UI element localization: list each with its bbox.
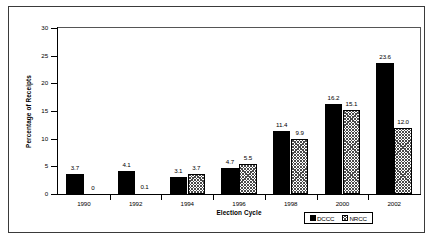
bar-dccc-1992 xyxy=(118,171,136,194)
y-tick-label: 30 xyxy=(41,25,48,31)
bar-value-label: 3.7 xyxy=(71,165,79,171)
figure-frame: Percentage of Receipts 051015202530 1990… xyxy=(8,6,425,233)
bar-value-label: 4.7 xyxy=(226,159,234,165)
bar-value-label: 15.1 xyxy=(346,101,358,107)
x-tick xyxy=(317,195,318,200)
x-tick-label: 1994 xyxy=(181,201,194,207)
legend-label-nrcc: NRCC xyxy=(349,215,366,222)
x-tick-label: 1990 xyxy=(77,201,90,207)
bar-dccc-2000 xyxy=(325,104,343,194)
bar-value-label: 3.7 xyxy=(192,165,200,171)
plot-area: 051015202530 199019921994199619982000200… xyxy=(57,27,421,195)
x-tick xyxy=(213,195,214,200)
legend-swatch-dccc xyxy=(310,215,316,221)
bar-nrcc-1994 xyxy=(188,174,206,194)
bar-nrcc-2000 xyxy=(343,110,361,194)
y-tick xyxy=(51,139,57,140)
legend-label-dccc: DCCC xyxy=(317,215,334,222)
legend-item-nrcc: NRCC xyxy=(342,215,366,222)
bar-dccc-1996 xyxy=(221,168,239,194)
y-tick-label: 15 xyxy=(41,108,48,114)
legend-swatch-nrcc xyxy=(342,215,348,221)
x-tick xyxy=(368,195,369,200)
x-tick xyxy=(265,195,266,200)
x-tick-label: 2002 xyxy=(387,201,400,207)
bar-value-label: 11.4 xyxy=(276,122,287,128)
x-tick-label: 1992 xyxy=(129,201,142,207)
y-tick-label: 10 xyxy=(41,136,48,142)
y-tick xyxy=(51,166,57,167)
y-axis-title: Percentage of Receipts xyxy=(22,27,34,195)
bar-value-label: 0 xyxy=(91,185,94,191)
x-tick xyxy=(110,195,111,200)
y-tick-label: 0 xyxy=(45,191,48,197)
bar-dccc-1998 xyxy=(273,131,291,194)
y-tick-label: 20 xyxy=(41,80,48,86)
bar-nrcc-2002 xyxy=(394,128,412,194)
chart-legend: DCCC NRCC xyxy=(304,212,373,224)
y-tick xyxy=(51,194,57,195)
bar-value-label: 16.2 xyxy=(328,95,340,101)
bar-value-label: 12.0 xyxy=(397,119,409,125)
bar-value-label: 4.1 xyxy=(122,162,130,168)
x-tick xyxy=(161,195,162,200)
bar-value-label: 3.1 xyxy=(174,168,182,174)
x-tick-label: 1996 xyxy=(232,201,245,207)
y-tick xyxy=(51,28,57,29)
bar-value-label: 5.5 xyxy=(244,155,252,161)
bar-dccc-1990 xyxy=(66,174,84,194)
y-tick-label: 25 xyxy=(41,53,48,59)
bar-value-label: 23.6 xyxy=(379,54,391,60)
x-tick-label: 1998 xyxy=(284,201,297,207)
y-tick xyxy=(51,83,57,84)
bar-nrcc-1998 xyxy=(291,139,309,194)
legend-item-dccc: DCCC xyxy=(310,215,334,222)
bar-dccc-2002 xyxy=(376,63,394,194)
bar-nrcc-1996 xyxy=(239,164,257,194)
bar-value-label: 9.9 xyxy=(296,130,304,136)
bar-dccc-1994 xyxy=(170,177,188,194)
bar-value-label: 0.1 xyxy=(140,184,148,190)
y-tick-label: 5 xyxy=(45,163,48,169)
y-tick xyxy=(51,56,57,57)
y-tick xyxy=(51,111,57,112)
x-tick-label: 2000 xyxy=(336,201,349,207)
